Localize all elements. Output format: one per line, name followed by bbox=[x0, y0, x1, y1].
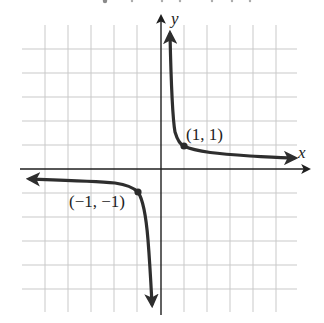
y-axis-label: y bbox=[169, 9, 179, 28]
point-label-negative: (−1, −1) bbox=[69, 192, 125, 211]
point-neg1-neg1 bbox=[134, 188, 141, 195]
x-axis-label: x bbox=[297, 143, 306, 162]
cropped-caption bbox=[103, 0, 251, 3]
hyperbola-graph: x y (1, 1) (−1, −1) bbox=[0, 0, 324, 323]
point-label-positive: (1, 1) bbox=[186, 125, 223, 144]
